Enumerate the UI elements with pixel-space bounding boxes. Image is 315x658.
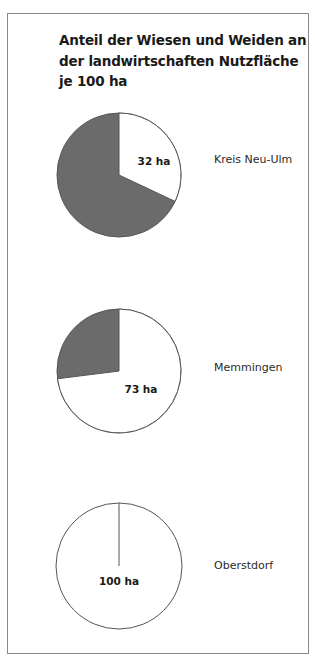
region-label-oberstdorf: Oberstdorf — [214, 559, 273, 572]
pie-oberstdorf: 100 ha — [56, 503, 182, 629]
region-label-kreis-neu-ulm: Kreis Neu-Ulm — [214, 153, 292, 166]
pie-kreis-neu-ulm: 32 ha — [57, 113, 181, 237]
slice-label: 73 ha — [125, 383, 158, 395]
region-label-memmingen: Memmingen — [214, 361, 282, 374]
slice-label: 32 ha — [138, 155, 171, 167]
pie-memmingen: 73 ha — [57, 309, 181, 433]
slice-label: 100 ha — [99, 575, 139, 587]
